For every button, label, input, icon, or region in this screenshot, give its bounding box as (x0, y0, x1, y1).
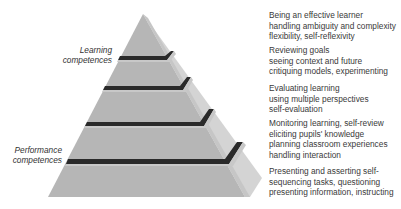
desc-line: sequencing tasks, questioning (269, 177, 394, 188)
tier-4-description: Reviewing goals seeing context and futur… (269, 45, 388, 77)
desc-line: Reviewing goals (269, 45, 388, 56)
label-line: Performance (4, 145, 62, 155)
performance-competences-label: Performance competences (4, 145, 62, 165)
desc-line: Monitoring learning, self-review (269, 118, 388, 129)
desc-line: eliciting pupils' knowledge (269, 129, 388, 140)
tier-5-description: Being an effective learner handling ambi… (269, 10, 396, 42)
desc-line: flexibility, self-reflexivity (269, 31, 396, 42)
desc-line: Evaluating learning (269, 83, 369, 94)
desc-line: presenting information, instructing (269, 187, 394, 198)
desc-line: seeing context and future (269, 56, 388, 67)
desc-line: using multiple perspectives (269, 94, 369, 105)
tier-1-description: Presenting and asserting self- sequencin… (269, 166, 394, 198)
label-line: competences (4, 155, 62, 165)
desc-line: handling ambiguity and complexity (269, 21, 396, 32)
desc-line: Being an effective learner (269, 10, 396, 21)
label-line: competences (60, 55, 112, 65)
learning-competences-label: Learning competences (60, 45, 112, 65)
pyramid-front-face (48, 14, 245, 197)
competence-pyramid (0, 0, 270, 209)
desc-line: critiquing models, experimenting (269, 66, 388, 77)
label-line: Learning (60, 45, 112, 55)
desc-line: Presenting and asserting self- (269, 166, 394, 177)
desc-line: self-evaluation (269, 104, 369, 115)
desc-line: planning classroom experiences (269, 139, 388, 150)
desc-line: handling interaction (269, 150, 388, 161)
tier-2-description: Monitoring learning, self-review eliciti… (269, 118, 388, 160)
tier-3-description: Evaluating learning using multiple persp… (269, 83, 369, 115)
